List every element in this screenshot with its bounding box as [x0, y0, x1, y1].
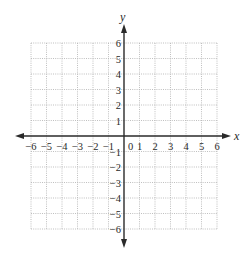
x-tick-label: 1	[137, 141, 142, 152]
x-tick-label: −6	[25, 141, 36, 152]
x-tick-label: 4	[183, 141, 189, 152]
y-tick-label: −3	[110, 178, 121, 189]
y-tick-label: 6	[116, 38, 121, 49]
y-axis-up-arrow-icon	[121, 24, 127, 33]
y-tick-label: −2	[110, 162, 121, 173]
x-axis-right-arrow-icon	[222, 133, 231, 139]
y-tick-label: −4	[110, 193, 122, 204]
x-tick-label: −4	[56, 141, 68, 152]
y-tick-label: 4	[116, 69, 122, 80]
x-tick-label: 2	[152, 141, 157, 152]
y-axis-label: y	[119, 10, 126, 24]
y-tick-label: −5	[110, 209, 121, 220]
x-axis-label: x	[233, 129, 240, 143]
x-negative-tick-labels: −6−5−4−3−2−1	[25, 141, 114, 152]
origin-label: 0	[128, 141, 133, 152]
x-tick-label: 3	[168, 141, 173, 152]
y-positive-tick-labels: 654321	[116, 38, 122, 127]
y-tick-label: −1	[110, 147, 121, 158]
y-tick-label: 1	[116, 116, 121, 127]
y-tick-label: 5	[116, 54, 121, 65]
x-axis-left-arrow-icon	[15, 133, 24, 139]
y-negative-tick-labels: −1−2−3−4−5−6	[110, 147, 122, 236]
y-tick-label: 3	[116, 85, 121, 96]
coordinate-plane: x y 0 −6−5−4−3−2−1 123456 654321 −1−2−3−…	[0, 0, 245, 266]
x-tick-label: −5	[41, 141, 52, 152]
y-tick-label: 2	[116, 100, 121, 111]
y-axis-down-arrow-icon	[121, 239, 127, 248]
axes	[15, 24, 231, 248]
x-tick-label: 6	[214, 141, 219, 152]
x-positive-tick-labels: 123456	[137, 141, 220, 152]
x-tick-label: −2	[87, 141, 98, 152]
y-tick-label: −6	[110, 224, 121, 235]
x-tick-label: 5	[199, 141, 204, 152]
x-tick-label: −3	[72, 141, 83, 152]
